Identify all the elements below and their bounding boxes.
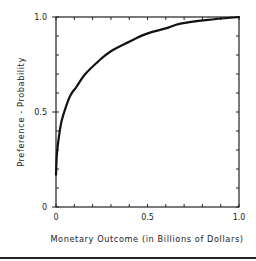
chart: 00.51.000.51.0 Monetary Outcome (in Bill…: [0, 0, 256, 261]
data-series: [56, 17, 239, 175]
y-tick-label: 0.5: [34, 108, 47, 117]
tick-labels: 00.51.000.51.0: [34, 13, 245, 222]
x-tick-label: 1.0: [233, 213, 246, 222]
y-axis-label: Preference - Probability: [16, 57, 26, 167]
axis-ticks: [52, 17, 239, 207]
chart-canvas: 00.51.000.51.0 Monetary Outcome (in Bill…: [0, 0, 256, 261]
x-tick-label: 0.5: [141, 213, 154, 222]
x-axis-label: Monetary Outcome (in Billions of Dollars…: [50, 234, 243, 244]
plot-frame: [56, 17, 239, 207]
y-tick-label: 1.0: [34, 13, 47, 22]
plot-border: [56, 17, 239, 207]
x-tick-label: 0: [53, 213, 58, 222]
utility-curve: [56, 17, 239, 175]
y-tick-label: 0: [42, 203, 47, 212]
